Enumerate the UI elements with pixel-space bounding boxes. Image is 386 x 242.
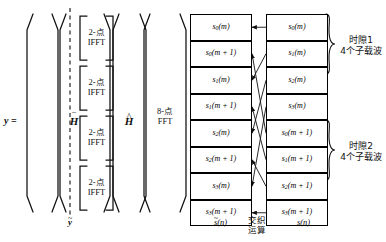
s-cell[interactable]: s2(m) — [266, 67, 328, 94]
slot-2-line1: 时隙2 — [337, 141, 385, 152]
s-tilde-cell-label: s3(m) — [212, 182, 229, 191]
interleave-wire — [252, 107, 266, 187]
s-cell[interactable]: s0(m) — [266, 14, 328, 41]
interleave-operation-line1: 交织 — [240, 215, 274, 225]
s-cell-label: s1(m + 1) — [282, 155, 313, 164]
s-cell[interactable]: s1(m + 1) — [266, 147, 328, 174]
s-tilde-cell-label: s3(m + 1) — [206, 208, 237, 217]
s-cell-label: s0(m) — [288, 23, 305, 32]
s-bottom-label: s(n) — [275, 218, 332, 227]
s-cell-label: s0(m + 1) — [282, 129, 313, 138]
slot-1-line2: 4个子载波 — [337, 46, 385, 57]
s-cell-label: s1(m) — [288, 49, 305, 58]
slot-2-annotation: 时隙2 4个子载波 — [337, 141, 385, 162]
diagram-canvas: y = ‾H ^H 2-点 IFFT 2-点 IFFT 2-点 IFFT 2-点… — [0, 0, 386, 242]
s-cell-label: s2(m) — [288, 76, 305, 85]
s-cell[interactable]: s1(m) — [266, 41, 328, 68]
s-cell[interactable]: s3(m) — [266, 94, 328, 121]
interleave-operation-line2: 运算 — [240, 225, 274, 235]
s-tilde-cell-label: s1(m + 1) — [206, 102, 237, 111]
interleave-wire — [252, 107, 266, 160]
s-tilde-cell-label: s1(m) — [212, 76, 229, 85]
s-tilde-cell-label: s2(m) — [212, 129, 229, 138]
s-cell-label: s3(m) — [288, 102, 305, 111]
interleave-wire — [252, 54, 266, 134]
slot-2-line2: 4个子载波 — [337, 152, 385, 163]
slot-1-line1: 时隙1 — [337, 35, 385, 46]
s-tilde-cell[interactable]: s3(m) — [190, 173, 252, 200]
s-cell[interactable]: s2(m + 1) — [266, 173, 328, 200]
s-tilde-cell[interactable]: s2(m + 1) — [190, 147, 252, 174]
s-cell-label: s3(m + 1) — [282, 208, 313, 217]
s-tilde-cell-label: s2(m + 1) — [206, 155, 237, 164]
s-tilde-cell-label: s0(m) — [212, 23, 229, 32]
interleave-wire — [252, 80, 266, 133]
s-tilde-cell[interactable]: s0(m + 1) — [190, 41, 252, 68]
s-cell[interactable]: s0(m + 1) — [266, 120, 328, 147]
s-cell-label: s2(m + 1) — [282, 182, 313, 191]
s-tilde-cell-label: s0(m + 1) — [206, 49, 237, 58]
interleave-operation-label: 交织 运算 — [240, 215, 274, 235]
s-tilde-cell[interactable]: s1(m + 1) — [190, 94, 252, 121]
slot-1-annotation: 时隙1 4个子载波 — [337, 35, 385, 56]
s-tilde-cell[interactable]: s0(m) — [190, 14, 252, 41]
s-tilde-cell[interactable]: s1(m) — [190, 67, 252, 94]
s-tilde-cell[interactable]: s2(m) — [190, 120, 252, 147]
